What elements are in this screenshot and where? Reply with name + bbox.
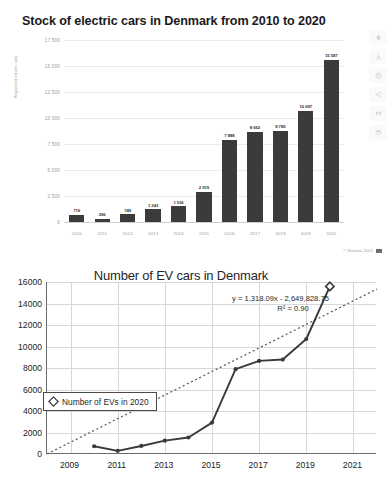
statista-bar-rect bbox=[273, 131, 288, 222]
statista-x-tick: 2017 bbox=[242, 231, 267, 236]
statista-bar-rect bbox=[196, 192, 211, 222]
ev-data-point[interactable] bbox=[186, 435, 190, 439]
favorite-star-icon[interactable] bbox=[369, 30, 387, 45]
statista-chart-panel: Stock of electric cars in Denmark from 2… bbox=[0, 0, 392, 258]
statista-bar[interactable]: 1 536 bbox=[166, 40, 191, 222]
statista-bar-rect bbox=[145, 209, 160, 222]
statista-y-tick: 10 000 bbox=[16, 116, 60, 121]
statista-x-tick: 2010 bbox=[64, 231, 89, 236]
ev-y-tick: 14000 bbox=[0, 299, 42, 309]
ev-data-point[interactable] bbox=[257, 359, 261, 363]
ev-x-tick: 2009 bbox=[60, 460, 79, 470]
statista-bar-rect bbox=[247, 132, 262, 222]
statista-bar-rect bbox=[69, 215, 84, 222]
download-icon[interactable] bbox=[369, 49, 387, 64]
statista-credit: © Statista 2021 bbox=[343, 248, 382, 253]
statista-x-tick: 2012 bbox=[115, 231, 140, 236]
statista-bar[interactable]: 296 bbox=[89, 40, 114, 222]
statista-bar-value-label: 1 536 bbox=[173, 200, 183, 205]
statista-bar[interactable]: 15 587 bbox=[319, 40, 344, 222]
statista-bar[interactable]: 8 662 bbox=[242, 40, 267, 222]
statista-x-tick: 2011 bbox=[89, 231, 114, 236]
ev-y-tick: 8000 bbox=[0, 363, 42, 373]
ev-y-tick: 0 bbox=[0, 449, 42, 459]
ev-chart-panel: Number of EV cars in Denmark 02000400060… bbox=[0, 258, 392, 485]
statista-x-axis-line bbox=[64, 222, 344, 223]
ev-x-tick: 2021 bbox=[343, 460, 362, 470]
ev-y-tick: 6000 bbox=[0, 385, 42, 395]
ev-trendline-r2: R² = 0.90 bbox=[232, 304, 372, 314]
ev-y-tick: 2000 bbox=[0, 428, 42, 438]
share-icon[interactable] bbox=[369, 87, 387, 102]
ev-x-tick: 2015 bbox=[201, 460, 220, 470]
statista-x-tick: 2016 bbox=[217, 231, 242, 236]
statista-bar-value-label: 8 785 bbox=[275, 124, 285, 129]
statista-action-rail[interactable] bbox=[367, 30, 389, 140]
ev-data-point[interactable] bbox=[163, 439, 167, 443]
statista-bar-rect bbox=[324, 60, 339, 222]
statista-bar[interactable]: 719 bbox=[64, 40, 89, 222]
statista-bar[interactable]: 7 888 bbox=[217, 40, 242, 222]
statista-bar-value-label: 10 697 bbox=[300, 104, 313, 109]
ev-data-point[interactable] bbox=[92, 444, 96, 448]
statista-bar-rect bbox=[171, 206, 186, 222]
ev-x-tick: 2019 bbox=[296, 460, 315, 470]
ev-data-point[interactable] bbox=[304, 337, 308, 341]
statista-x-tick: 2014 bbox=[166, 231, 191, 236]
statista-bar[interactable]: 8 785 bbox=[268, 40, 293, 222]
statista-bar-rect bbox=[222, 140, 237, 222]
statista-bar[interactable]: 10 697 bbox=[293, 40, 318, 222]
print-icon[interactable] bbox=[369, 125, 387, 140]
statista-y-tick: 15 000 bbox=[16, 64, 60, 69]
statista-bar-value-label: 1 243 bbox=[148, 203, 158, 208]
ev-data-point[interactable] bbox=[116, 449, 120, 453]
statista-credit-text: © Statista 2021 bbox=[343, 248, 373, 253]
ev-x-tick: 2017 bbox=[249, 460, 268, 470]
ev-chart-title: Number of EV cars in Denmark bbox=[66, 268, 296, 283]
statista-bar-rect bbox=[95, 219, 110, 222]
statista-x-tick: 2019 bbox=[293, 231, 318, 236]
statista-plot-area: Registered electric cars 02 5005 0007 50… bbox=[16, 36, 348, 244]
ev-trendline-annotation: y = 1,318.09x - 2,649,828.75 R² = 0.90 bbox=[232, 294, 372, 315]
statista-bar-rect bbox=[120, 214, 135, 222]
ev-y-tick: 4000 bbox=[0, 406, 42, 416]
ev-legend-label: Number of EVs in 2020 bbox=[62, 397, 149, 407]
ev-data-point-highlight[interactable] bbox=[326, 282, 334, 290]
ev-trendline-equation: y = 1,318.09x - 2,649,828.75 bbox=[232, 294, 329, 303]
settings-gear-icon[interactable] bbox=[369, 68, 387, 83]
statista-x-tick: 2020 bbox=[319, 231, 344, 236]
statista-bar-value-label: 749 bbox=[124, 208, 131, 213]
statista-bar[interactable]: 1 243 bbox=[140, 40, 165, 222]
ev-data-point[interactable] bbox=[281, 357, 285, 361]
diamond-marker-icon bbox=[48, 396, 59, 407]
statista-bar[interactable]: 2 919 bbox=[191, 40, 216, 222]
statista-y-tick: 5 000 bbox=[16, 168, 60, 173]
ev-y-tick: 10000 bbox=[0, 342, 42, 352]
statista-bar-value-label: 296 bbox=[99, 212, 106, 217]
ev-data-point[interactable] bbox=[139, 444, 143, 448]
ev-x-tick: 2013 bbox=[154, 460, 173, 470]
ev-y-tick: 12000 bbox=[0, 320, 42, 330]
ev-x-tick: 2011 bbox=[107, 460, 125, 470]
statista-y-tick: 7 500 bbox=[16, 142, 60, 147]
cite-icon[interactable] bbox=[369, 106, 387, 121]
statista-x-tick: 2015 bbox=[191, 231, 216, 236]
ev-y-tick: 16000 bbox=[0, 277, 42, 287]
statista-chart-title: Stock of electric cars in Denmark from 2… bbox=[22, 14, 352, 28]
statista-y-tick: 2 500 bbox=[16, 194, 60, 199]
flag-icon bbox=[376, 249, 382, 253]
statista-y-tick: 17 500 bbox=[16, 38, 60, 43]
statista-y-tick: 12 500 bbox=[16, 90, 60, 95]
statista-y-tick: 0 bbox=[16, 220, 60, 225]
statista-bar-rect bbox=[298, 111, 313, 222]
statista-bar-value-label: 15 587 bbox=[325, 53, 338, 58]
ev-data-point[interactable] bbox=[233, 367, 237, 371]
ev-data-point[interactable] bbox=[210, 421, 214, 425]
statista-x-axis-ticks: 2010201120122013201420152016201720182019… bbox=[64, 231, 344, 236]
statista-bar-value-label: 719 bbox=[73, 208, 80, 213]
statista-bar-value-label: 7 888 bbox=[224, 133, 234, 138]
statista-bar-value-label: 8 662 bbox=[250, 125, 260, 130]
statista-bar-series: 7192967491 2431 5362 9197 8888 6628 7851… bbox=[64, 40, 344, 222]
statista-bar[interactable]: 749 bbox=[115, 40, 140, 222]
statista-bar-value-label: 2 919 bbox=[199, 185, 209, 190]
